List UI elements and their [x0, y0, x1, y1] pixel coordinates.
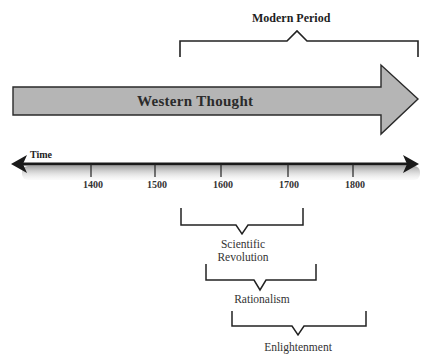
rationalism-label: Rationalism	[234, 293, 290, 306]
rationalism-bracket	[206, 264, 316, 290]
tick-label-1600: 1600	[213, 180, 233, 190]
enlightenment-bracket	[232, 311, 366, 335]
time-axis-label: Time	[30, 150, 52, 160]
enlightenment-label: Enlightenment	[264, 341, 332, 354]
tick-label-1400: 1400	[83, 180, 103, 190]
western-thought-label: Western Thought	[137, 94, 253, 109]
scientific-revolution-label: Scientific Revolution	[217, 238, 268, 264]
scientific-revolution-label-line1: Scientific	[217, 238, 268, 251]
scientific-revolution-label-line2: Revolution	[217, 251, 268, 264]
tick-label-1500: 1500	[147, 180, 167, 190]
modern-period-bracket	[180, 31, 418, 57]
modern-period-label: Modern Period	[252, 12, 330, 24]
tick-label-1800: 1800	[345, 180, 365, 190]
tick-label-1700: 1700	[279, 180, 299, 190]
scientific-revolution-bracket	[181, 208, 303, 234]
